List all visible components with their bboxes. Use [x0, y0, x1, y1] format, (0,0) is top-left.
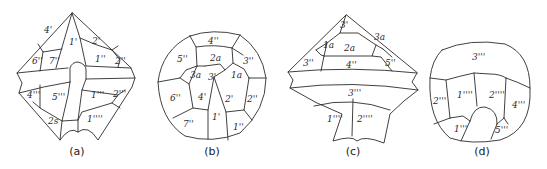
svg-text:2'''': 2'''': [488, 90, 505, 100]
svg-text:1': 1': [212, 112, 220, 122]
svg-text:5''': 5''': [495, 125, 508, 135]
svg-text:3a: 3a: [190, 70, 201, 80]
svg-text:4''': 4''': [26, 90, 40, 100]
svg-text:2''': 2''': [432, 96, 446, 106]
svg-text:1'''': 1'''': [457, 90, 473, 100]
dinoflagellate-plate-diagrams: 4' 1' 2' 6'' 7'' 1'' 2'' 4''' 5''' 1''' …: [0, 0, 547, 169]
svg-text:2s: 2s: [47, 116, 59, 126]
svg-text:4': 4': [43, 25, 52, 35]
svg-text:5'': 5'': [177, 54, 188, 64]
svg-text:2': 2': [224, 94, 233, 104]
svg-text:7'': 7'': [183, 119, 194, 129]
svg-text:4'': 4'': [345, 60, 357, 70]
svg-text:3'': 3'': [243, 56, 254, 66]
svg-text:6'': 6'': [170, 93, 181, 103]
svg-text:1'': 1'': [233, 122, 244, 132]
caption-c: (c): [338, 145, 368, 158]
svg-text:3''': 3''': [348, 88, 361, 98]
svg-text:4'': 4'': [207, 36, 219, 46]
panel-d-drawing: 3''' 2''' 1'''' 2'''' 4''' 1''' 5''': [430, 42, 530, 142]
svg-text:2a: 2a: [343, 43, 355, 53]
svg-text:1a: 1a: [231, 70, 242, 80]
svg-text:1': 1': [69, 37, 77, 47]
svg-text:1a: 1a: [323, 40, 334, 50]
svg-text:1'''': 1'''': [327, 114, 343, 124]
svg-text:4': 4': [197, 92, 206, 102]
svg-text:1''': 1''': [91, 90, 104, 100]
caption-a: (a): [62, 145, 92, 158]
svg-text:2a: 2a: [209, 53, 221, 63]
svg-text:3': 3': [340, 20, 348, 30]
svg-text:3'': 3'': [303, 58, 314, 68]
panel-c-drawing: 3' 1a 2a 3a 3'' 4'' 5'' 3''' 1'''' 2'''': [288, 15, 418, 143]
svg-text:4''': 4''': [511, 100, 525, 110]
svg-text:1''': 1''': [454, 124, 467, 134]
caption-d: (d): [467, 145, 497, 158]
panel-b-drawing: 4'' 5'' 2a 3'' 3a 3' 1a 6'' 4' 2' 2'' 7'…: [158, 32, 266, 140]
svg-text:3''': 3''': [472, 52, 485, 62]
svg-text:5''': 5''': [52, 92, 65, 102]
svg-text:2'': 2'': [246, 94, 258, 104]
svg-text:1'': 1'': [95, 54, 106, 64]
svg-text:2'''': 2'''': [356, 114, 373, 124]
panel-a-drawing: 4' 1' 2' 6'' 7'' 1'' 2'' 4''' 5''' 1''' …: [17, 13, 135, 140]
svg-text:2'': 2'': [114, 56, 126, 66]
svg-text:3a: 3a: [374, 32, 385, 42]
svg-text:3': 3': [208, 72, 216, 82]
svg-text:1'''': 1'''': [87, 114, 103, 124]
svg-text:7'': 7'': [49, 56, 60, 66]
svg-text:6'': 6'': [32, 56, 43, 66]
svg-text:2''': 2''': [112, 89, 126, 99]
svg-text:2': 2': [91, 36, 100, 46]
caption-b: (b): [197, 145, 227, 158]
svg-text:5'': 5'': [385, 58, 396, 68]
